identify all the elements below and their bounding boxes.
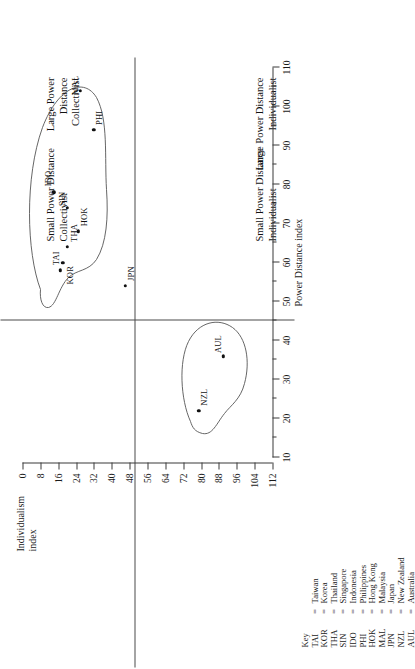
legend-row: HOK=Hong Kong	[367, 557, 377, 647]
x-axis-tick-major	[272, 261, 279, 262]
y-axis-tick-label: 96	[231, 473, 241, 497]
legend-row-code: KOR	[319, 617, 329, 647]
legend-row-country: Korea	[319, 557, 329, 605]
y-axis-tick-label: 40	[106, 473, 116, 497]
legend-row-equals: =	[396, 605, 406, 617]
y-axis-tick-label: 16	[53, 473, 63, 497]
y-axis-tick-label: 24	[71, 473, 81, 497]
data-point[interactable]	[76, 229, 79, 232]
data-point[interactable]	[92, 128, 95, 131]
x-axis-tick-label: 40	[281, 335, 291, 345]
legend-row-code: JPN	[386, 617, 396, 647]
data-point-label: PHI	[94, 110, 103, 124]
legend-header-key: Key	[300, 617, 310, 647]
x-axis-tick-minor	[272, 320, 276, 321]
x-axis-tick-minor	[272, 164, 276, 165]
data-point-label: SIN	[57, 191, 66, 205]
legend-row: JPN=Japan	[386, 557, 396, 647]
legend-row-code: IDO	[348, 617, 358, 647]
quad-sc-line1: Small Power Distance	[44, 148, 57, 241]
legend-table: Key TAI=TaiwanKOR=KoreaTHA=ThailandSIN=S…	[300, 557, 415, 647]
data-point-label: HOK	[79, 207, 88, 226]
y-axis-tick-major	[58, 462, 59, 469]
data-point[interactable]	[58, 268, 61, 271]
y-axis-tick-label: 56	[142, 473, 152, 497]
data-point-label: MAL	[70, 75, 79, 95]
y-axis-tick-label: 88	[213, 473, 223, 497]
quad-li-line1: Large Power Distance	[253, 77, 266, 170]
legend-row-equals: =	[386, 605, 396, 617]
y-axis-tick-major	[147, 462, 148, 469]
legend-row: NZL=New Zealand	[396, 557, 406, 647]
legend-row-code: HOK	[367, 617, 377, 647]
legend-row: IDO=Indonesia	[348, 557, 358, 647]
data-point[interactable]	[65, 206, 68, 209]
data-point-label: AUL	[213, 335, 222, 353]
y-axis-title-line2: index	[26, 495, 38, 551]
data-point[interactable]	[197, 409, 200, 412]
legend-header-eq	[300, 605, 310, 617]
y-axis-tick-major	[254, 462, 255, 469]
x-axis-tick-minor	[272, 281, 276, 282]
y-axis-tick-major	[201, 462, 202, 469]
x-axis-tick-major	[272, 378, 279, 379]
x-axis-tick-minor	[272, 203, 276, 204]
y-axis-tick-label: 32	[88, 473, 98, 497]
y-axis-tick-label: 48	[124, 473, 134, 497]
x-axis-tick-minor	[272, 359, 276, 360]
y-axis-tick-label: 8	[35, 473, 45, 497]
legend-row-country: New Zealand	[396, 557, 406, 605]
x-axis-tick-label: 60	[281, 257, 291, 267]
x-axis-tick-label: 90	[281, 140, 291, 150]
legend-row-equals: =	[319, 605, 329, 617]
y-axis-tick-label: 72	[178, 473, 188, 497]
x-axis-tick-major	[272, 417, 279, 418]
y-axis-tick-label: 64	[160, 473, 170, 497]
plot-area: Small Power Distance Collectivist Large …	[22, 67, 272, 457]
data-point[interactable]	[123, 284, 126, 287]
y-axis-tick-major	[165, 462, 166, 469]
x-axis-tick-label: 10	[281, 452, 291, 462]
x-axis-tick-minor	[272, 125, 276, 126]
x-axis-tick-label: 50	[281, 296, 291, 306]
data-point[interactable]	[221, 354, 224, 357]
y-axis-title: Individualism index	[14, 495, 38, 551]
legend-row-country: Hong Kong	[367, 557, 377, 605]
x-axis-tick-major	[272, 456, 279, 457]
x-axis-tick-major	[272, 339, 279, 340]
x-axis-tick-label: 80	[281, 179, 291, 189]
data-point[interactable]	[60, 260, 63, 263]
legend-header-row: Key	[300, 557, 310, 647]
legend-row-country: Japan	[386, 557, 396, 605]
y-axis-tick-major	[22, 462, 23, 469]
y-axis-tick-major	[111, 462, 112, 469]
data-point-label: KOR	[65, 265, 74, 284]
legend-row-equals: =	[348, 605, 358, 617]
x-axis-tick-label: 100	[281, 99, 291, 113]
y-axis-tick-major	[183, 462, 184, 469]
legend-row-code: AUL	[406, 617, 415, 647]
y-axis-title-line1: Individualism	[14, 495, 26, 551]
legend-row: AUL=Australia	[406, 557, 415, 647]
y-axis-tick-major	[218, 462, 219, 469]
x-axis-tick-minor	[272, 242, 276, 243]
x-axis-tick-label: 70	[281, 218, 291, 228]
y-axis-tick-major	[272, 462, 273, 469]
legend-row-equals: =	[367, 605, 377, 617]
y-axis-tick-label: 0	[17, 473, 27, 497]
data-point[interactable]	[65, 245, 68, 248]
x-axis-tick-major	[272, 183, 279, 184]
legend-row-country: Indonesia	[348, 557, 358, 605]
y-axis-tick-label: 80	[196, 473, 206, 497]
data-point-label: JPN	[126, 266, 135, 281]
y-axis-tick-major	[236, 462, 237, 469]
data-point-label: TAI	[51, 251, 60, 265]
data-point[interactable]	[52, 190, 55, 193]
y-axis-tick-major	[76, 462, 77, 469]
x-axis-tick-label: 110	[281, 60, 291, 74]
x-axis-tick-minor	[272, 437, 276, 438]
x-axis-tick-major	[272, 222, 279, 223]
y-axis-tick-label: 112	[267, 473, 277, 497]
